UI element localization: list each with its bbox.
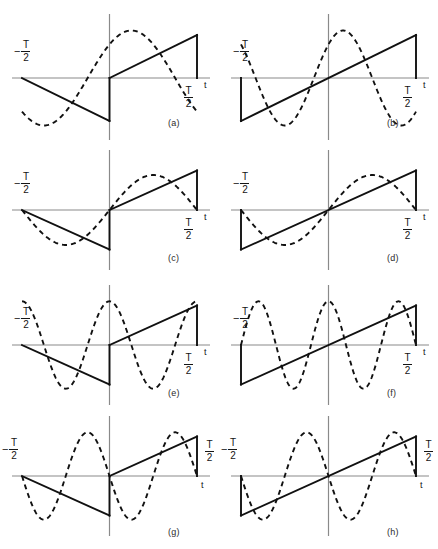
fraction-numerator: T <box>403 218 411 228</box>
solid-waveform-segment <box>110 170 198 210</box>
time-axis-label: t <box>204 212 207 222</box>
fraction-numerator: T <box>229 438 237 448</box>
fraction: T2 <box>21 172 30 195</box>
fraction-denominator: 2 <box>404 99 412 109</box>
waveform-panel-a: −T2T2t(a) <box>0 0 219 140</box>
panel-letter-e: (e) <box>168 388 180 398</box>
fraction: T2 <box>184 353 193 376</box>
fraction-numerator: T <box>205 440 213 450</box>
minus-sign: − <box>233 178 239 189</box>
label-negative-half-period: −T2 <box>14 172 30 195</box>
fraction-denominator: 2 <box>241 320 249 330</box>
solid-waveform-segment <box>110 35 198 78</box>
minus-sign: − <box>233 313 239 324</box>
fraction-denominator: 2 <box>425 453 433 463</box>
fraction-numerator: T <box>22 172 30 182</box>
panel-letter-f: (f) <box>387 388 396 398</box>
fraction: T2 <box>228 438 237 461</box>
solid-waveform-segment <box>22 210 110 250</box>
label-negative-half-period: −T2 <box>14 40 30 63</box>
fraction-numerator: T <box>241 40 249 50</box>
fraction-denominator: 2 <box>229 451 237 461</box>
time-axis-label: t <box>423 212 426 222</box>
fraction: T2 <box>240 172 249 195</box>
waveform-panel-d: −T2T2t(d) <box>219 140 438 275</box>
fraction: T2 <box>21 40 30 63</box>
minus-sign: − <box>221 444 227 455</box>
time-axis-label: t <box>423 347 426 357</box>
label-negative-half-period: −T2 <box>221 438 237 461</box>
fraction-denominator: 2 <box>22 320 30 330</box>
fraction: T2 <box>403 353 412 376</box>
label-negative-half-period: −T2 <box>233 307 249 330</box>
fraction-numerator: T <box>241 172 249 182</box>
label-half-period: T2 <box>184 353 193 376</box>
time-axis-label: t <box>204 80 207 90</box>
time-axis-label: t <box>420 480 423 490</box>
label-half-period: T2 <box>403 353 412 376</box>
label-half-period: T2 <box>403 86 412 109</box>
fraction-denominator: 2 <box>241 185 249 195</box>
fraction: T2 <box>403 86 412 109</box>
fraction: T2 <box>424 440 433 463</box>
fraction-numerator: T <box>10 438 18 448</box>
fraction: T2 <box>240 307 249 330</box>
fraction-denominator: 2 <box>22 185 30 195</box>
minus-sign: − <box>233 46 239 57</box>
fraction: T2 <box>403 218 412 241</box>
waveform-panel-b: −T2T2t(b) <box>219 0 438 140</box>
time-axis-label: t <box>423 80 426 90</box>
waveform-figure-grid: −T2T2t(a)−T2T2t(b)−T2T2t(c)−T2T2t(d)−T2T… <box>0 0 438 549</box>
fraction-numerator: T <box>403 353 411 363</box>
waveform-panel-h: −T2T2t(h) <box>219 410 438 549</box>
label-negative-half-period: −T2 <box>233 172 249 195</box>
fraction: T2 <box>21 307 30 330</box>
fraction: T2 <box>184 218 193 241</box>
solid-waveform-segment <box>22 345 110 385</box>
minus-sign: − <box>14 46 20 57</box>
fraction: T2 <box>184 86 193 109</box>
fraction-denominator: 2 <box>185 231 193 241</box>
fraction: T2 <box>205 440 214 463</box>
fraction-denominator: 2 <box>241 53 249 63</box>
panel-letter-a: (a) <box>168 118 180 128</box>
label-half-period: T2 <box>403 218 412 241</box>
fraction-numerator: T <box>184 353 192 363</box>
label-half-period: T2 <box>184 86 193 109</box>
fraction-numerator: T <box>22 40 30 50</box>
fraction-denominator: 2 <box>10 451 18 461</box>
panel-letter-c: (c) <box>168 253 179 263</box>
fraction-denominator: 2 <box>206 453 214 463</box>
fraction-denominator: 2 <box>404 231 412 241</box>
label-half-period: T2 <box>184 218 193 241</box>
fraction-denominator: 2 <box>185 99 193 109</box>
fraction-numerator: T <box>22 307 30 317</box>
fraction-denominator: 2 <box>185 366 193 376</box>
fraction: T2 <box>240 40 249 63</box>
time-axis-label: t <box>204 347 207 357</box>
label-half-period: T2 <box>424 440 433 463</box>
label-negative-half-period: −T2 <box>2 438 18 461</box>
solid-waveform-segment <box>22 78 110 121</box>
minus-sign: − <box>2 444 8 455</box>
panel-letter-h: (h) <box>387 527 399 537</box>
fraction: T2 <box>9 438 18 461</box>
time-axis-label: t <box>201 480 204 490</box>
panel-letter-d: (d) <box>387 253 399 263</box>
solid-waveform-segment <box>110 305 198 345</box>
minus-sign: − <box>14 313 20 324</box>
waveform-panel-e: −T2T2t(e) <box>0 275 219 410</box>
panel-letter-b: (b) <box>387 118 399 128</box>
waveform-panel-g: −T2T2t(g) <box>0 410 219 549</box>
fraction-denominator: 2 <box>22 53 30 63</box>
panel-letter-g: (g) <box>168 527 180 537</box>
fraction-numerator: T <box>184 218 192 228</box>
label-negative-half-period: −T2 <box>14 307 30 330</box>
label-negative-half-period: −T2 <box>233 40 249 63</box>
minus-sign: − <box>14 178 20 189</box>
fraction-numerator: T <box>184 86 192 96</box>
label-half-period: T2 <box>205 440 214 463</box>
fraction-numerator: T <box>241 307 249 317</box>
fraction-numerator: T <box>424 440 432 450</box>
waveform-panel-c: −T2T2t(c) <box>0 140 219 275</box>
